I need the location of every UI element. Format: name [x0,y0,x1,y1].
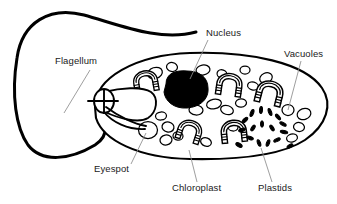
label-vacuoles: Vacuoles [284,48,323,59]
diagram-canvas: Flagellum Nucleus Vacuoles Eyespot Chlor… [0,0,337,204]
vacuole [155,112,167,121]
leader-flagellum [64,70,90,113]
nucleus-body [164,71,208,108]
label-nucleus: Nucleus [206,27,241,38]
label-plastids: Plastids [258,182,292,193]
label-chloroplast: Chloroplast [172,182,221,193]
vacuole [240,66,250,74]
label-eyespot: Eyespot [94,163,129,174]
euglena-diagram: Flagellum Nucleus Vacuoles Eyespot Chlor… [0,0,337,204]
plastid [259,106,263,113]
plastid [261,121,264,128]
nucleus-shape [164,71,208,108]
vacuole [235,98,247,107]
label-flagellum: Flagellum [55,55,97,66]
